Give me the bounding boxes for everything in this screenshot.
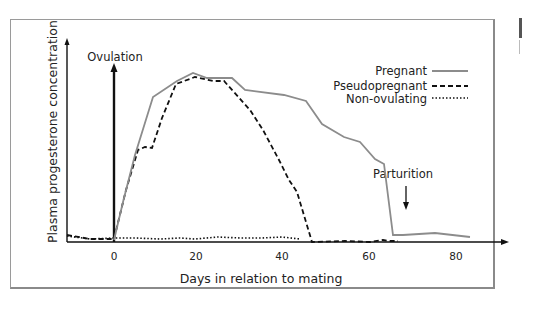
chart-svg: Plasma progesterone concentration 0 20 4… bbox=[0, 0, 540, 310]
ovulation-arrow-icon bbox=[111, 63, 118, 72]
y-axis-arrow-icon bbox=[65, 38, 70, 45]
ovulation-label: Ovulation bbox=[87, 50, 142, 64]
x-tick-label: 20 bbox=[189, 250, 202, 262]
legend-label-non-ovulating: Non-ovulating bbox=[346, 92, 427, 106]
x-axis-arrow-icon bbox=[501, 239, 509, 245]
x-axis-label: Days in relation to mating bbox=[180, 271, 343, 286]
parturition-arrow-icon bbox=[403, 202, 409, 210]
legend-label-pregnant: Pregnant bbox=[375, 64, 427, 78]
x-tick-label: 40 bbox=[275, 250, 288, 262]
y-axis-label: Plasma progesterone concentration bbox=[45, 20, 60, 243]
x-tick-label: 80 bbox=[449, 250, 462, 262]
legend-label-pseudopregnant: Pseudopregnant bbox=[333, 79, 427, 93]
x-tick-label: 0 bbox=[111, 250, 118, 262]
legend: Pregnant Pseudopregnant Non-ovulating bbox=[333, 64, 468, 106]
x-tick-label: 60 bbox=[362, 250, 375, 262]
parturition-label: Parturition bbox=[373, 167, 433, 181]
